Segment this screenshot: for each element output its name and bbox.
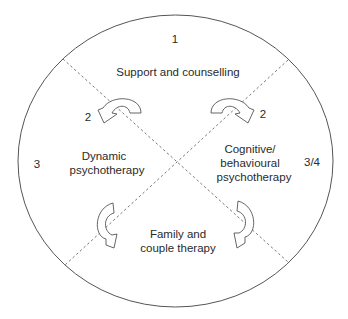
region-number-left: 3 xyxy=(34,158,40,170)
region-label-right-line3: psychotherapy xyxy=(217,171,292,183)
arrow-number-top-left: 2 xyxy=(85,111,91,123)
therapy-model-diagram: 1 3 3/4 2 2 Support and counselling Dyna… xyxy=(0,0,348,319)
arrow-number-top-right: 2 xyxy=(260,108,266,120)
region-label-right-line1: Cognitive/ xyxy=(224,143,276,155)
region-label-bottom-line2: couple therapy xyxy=(140,242,216,254)
curved-arrow-icon-bottom-right xyxy=(234,201,254,248)
curved-arrow-icon-bottom-left xyxy=(97,203,117,248)
region-number-right: 3/4 xyxy=(304,156,321,168)
region-label-left-line2: psychotherapy xyxy=(70,164,145,176)
region-label-top: Support and counselling xyxy=(116,66,239,78)
region-label-bottom-line1: Family and xyxy=(150,228,206,240)
curved-arrow-icon-top-left xyxy=(98,99,141,123)
region-number-top: 1 xyxy=(172,33,178,45)
region-label-left-line1: Dynamic xyxy=(82,150,127,162)
region-label-right-line2: behavioural xyxy=(220,157,279,169)
